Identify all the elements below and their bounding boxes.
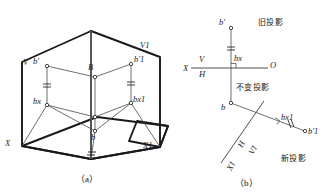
label-point-b-horizontal: b — [91, 133, 95, 142]
label-point-B: B — [88, 63, 93, 72]
label-plane-v-panelb: V — [199, 55, 204, 64]
caption-panel-b: （b） — [235, 176, 258, 189]
label-point-bx1: bx1 — [133, 95, 145, 104]
label-point-b-front: b' — [33, 57, 39, 66]
new-axis-x1-line — [221, 101, 264, 163]
panel-b-drawing — [191, 26, 307, 163]
label-point-b-front1: b'1 — [134, 55, 144, 64]
right-angle-mark-bx — [231, 64, 236, 69]
label-point-b-panelb: b — [221, 103, 225, 112]
label-point-bprime1-panelb: b'1 — [308, 127, 318, 136]
plane-v-outline — [22, 31, 91, 159]
vertex-bprime — [45, 64, 48, 67]
vertex-bx — [45, 103, 48, 106]
label-plane-v: V — [23, 58, 28, 67]
rail-b-to-bx1 — [95, 103, 131, 117]
vertex-B — [93, 75, 96, 78]
label-point-bx: bx — [33, 97, 41, 106]
label-point-bprime-panelb: b' — [219, 18, 225, 27]
note-new-projection: 新投影 — [281, 155, 306, 163]
caption-panel-a: （a） — [76, 172, 98, 185]
figure-canvas — [0, 0, 325, 195]
label-axis-x: X — [5, 139, 10, 148]
note-unchanged-projection: 不变投影 — [236, 84, 269, 92]
rail-B-to-bprime1 — [95, 64, 131, 77]
rail-bx-to-b — [47, 105, 95, 117]
point-bprime1-panelb — [303, 129, 306, 132]
label-plane-v1: V1 — [140, 41, 149, 50]
note-old-projection: 旧投影 — [258, 19, 283, 27]
label-axis-x1: X1 — [143, 141, 152, 150]
label-origin-o: O — [270, 61, 276, 70]
label-point-bx1-panelb: bx1 — [281, 113, 293, 122]
point-bprime-panelb — [229, 26, 232, 29]
label-point-bx-panelb: bx — [234, 54, 242, 63]
label-axis-x-panelb: X — [183, 64, 188, 73]
point-b-panelb — [229, 101, 232, 104]
vertex-bprime1 — [129, 62, 132, 65]
vertex-b-center — [93, 115, 96, 118]
edge-bx-to-axis-x — [22, 105, 47, 146]
right-angle-mark-bx1 — [275, 118, 280, 125]
label-plane-h-panelb: H — [199, 70, 205, 79]
